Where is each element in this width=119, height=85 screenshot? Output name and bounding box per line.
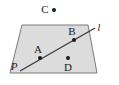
point-label-a: A <box>34 43 42 55</box>
point-marker-c <box>52 8 56 12</box>
point-marker-a <box>38 56 42 60</box>
point-label-c: C <box>41 3 48 15</box>
plane-label-p: P <box>10 60 18 72</box>
geometry-figure: P l C A B D <box>0 0 119 85</box>
diagram-canvas: P l C A B D <box>0 0 119 85</box>
line-label-l: l <box>98 22 101 33</box>
point-label-d: D <box>64 61 72 73</box>
plane-parallelogram <box>10 25 97 73</box>
point-marker-d <box>66 56 70 60</box>
point-marker-b <box>72 38 76 42</box>
point-label-b: B <box>68 25 75 37</box>
